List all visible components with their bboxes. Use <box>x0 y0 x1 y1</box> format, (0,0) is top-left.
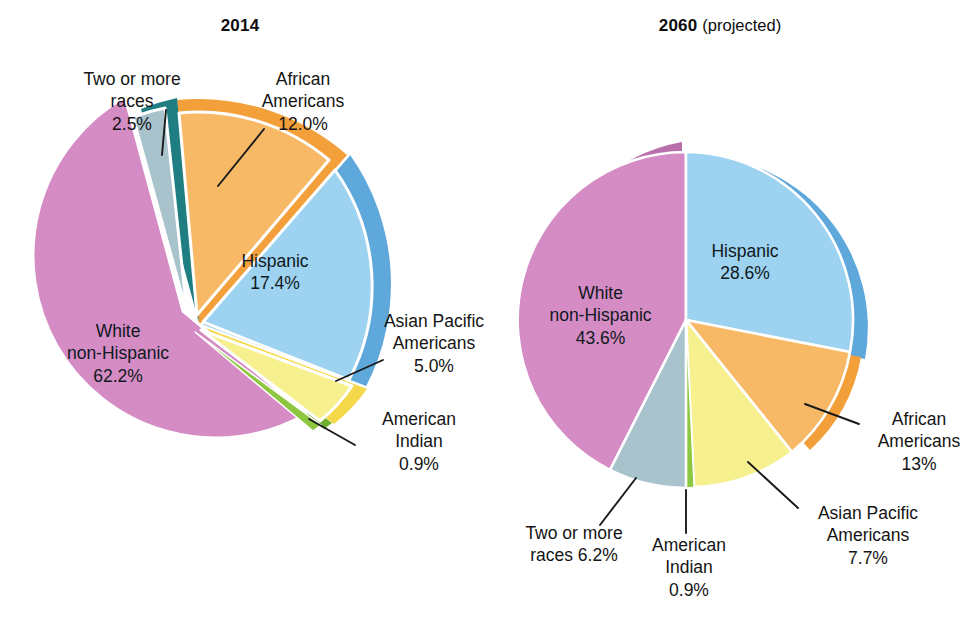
label-american-indian-line2-2060: Indian <box>630 556 748 578</box>
label-two-or-more-2014: Two or more races 2.5% <box>52 68 212 135</box>
label-american-indian-2060: American Indian 0.9% <box>630 534 748 601</box>
label-white-non-hispanic-2014: White non-Hispanic 62.2% <box>33 320 203 387</box>
label-white-non-hispanic-line2-2014: non-Hispanic <box>33 342 203 364</box>
label-two-or-more-line2-2060: races 6.2% <box>498 544 650 566</box>
label-african-americans-line1-2060: African <box>858 408 965 430</box>
label-african-americans-2060: African Americans 13% <box>858 408 965 475</box>
label-american-indian-line2-2014: Indian <box>358 430 480 452</box>
label-two-or-more-line2-2014: races <box>52 90 212 112</box>
label-hispanic-pct-2014: 17.4% <box>215 272 335 294</box>
leader-line-american-indian-2014 <box>309 419 355 445</box>
label-american-indian-pct-2014: 0.9% <box>358 453 480 475</box>
label-white-non-hispanic-2060: White non-Hispanic 43.6% <box>518 282 683 349</box>
label-hispanic-name-2060: Hispanic <box>680 240 810 262</box>
label-hispanic-pct-2060: 28.6% <box>680 262 810 284</box>
label-two-or-more-pct-2014: 2.5% <box>52 113 212 135</box>
label-hispanic-name-2014: Hispanic <box>215 250 335 272</box>
chart-panel-2014: 2014 <box>0 0 480 623</box>
label-african-americans-pct-2014: 12.0% <box>228 113 378 135</box>
label-american-indian-line1-2014: American <box>358 408 480 430</box>
label-hispanic-2014: Hispanic 17.4% <box>215 250 335 295</box>
label-american-indian-2014: American Indian 0.9% <box>358 408 480 475</box>
label-two-or-more-line1-2014: Two or more <box>52 68 212 90</box>
label-asian-pacific-pct-2060: 7.7% <box>800 547 936 569</box>
label-white-non-hispanic-line2-2060: non-Hispanic <box>518 304 683 326</box>
label-white-non-hispanic-pct-2060: 43.6% <box>518 327 683 349</box>
label-african-americans-line2-2060: Americans <box>858 430 965 452</box>
label-white-non-hispanic-line1-2060: White <box>518 282 683 304</box>
label-african-americans-pct-2060: 13% <box>858 453 965 475</box>
label-white-non-hispanic-pct-2014: 62.2% <box>33 365 203 387</box>
leader-line-asian-pacific-2060 <box>748 462 798 508</box>
label-hispanic-2060: Hispanic 28.6% <box>680 240 810 285</box>
label-asian-pacific-2060: Asian Pacific Americans 7.7% <box>800 502 936 569</box>
label-two-or-more-line1-2060: Two or more <box>498 522 650 544</box>
label-american-indian-pct-2060: 0.9% <box>630 579 748 601</box>
label-asian-pacific-line2-2060: Americans <box>800 524 936 546</box>
label-african-americans-line2-2014: Americans <box>228 90 378 112</box>
label-african-americans-line1-2014: African <box>228 68 378 90</box>
chart-panel-2060: 2060 (projected) <box>480 0 960 623</box>
label-white-non-hispanic-line1-2014: White <box>33 320 203 342</box>
label-two-or-more-2060: Two or more races 6.2% <box>498 522 650 567</box>
label-african-americans-2014: African Americans 12.0% <box>228 68 378 135</box>
label-asian-pacific-line1-2060: Asian Pacific <box>800 502 936 524</box>
label-american-indian-line1-2060: American <box>630 534 748 556</box>
leader-line-two-or-more-2060 <box>600 478 636 525</box>
